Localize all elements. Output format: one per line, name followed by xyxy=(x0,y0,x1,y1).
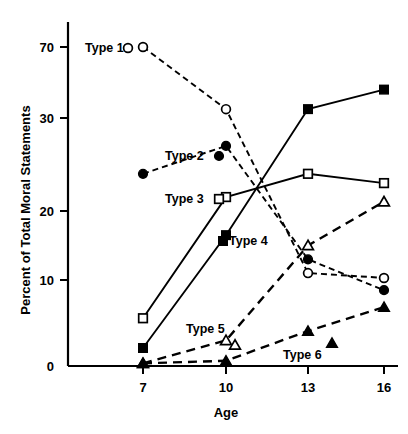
x-tick-label-10: 10 xyxy=(219,380,233,395)
data-point-type-2-age-10 xyxy=(222,142,231,151)
data-point-type-3-age-16 xyxy=(380,179,389,188)
legend-marker-type-4 xyxy=(219,237,228,246)
data-point-type-1-age-10 xyxy=(222,105,231,114)
data-point-type-3-age-7 xyxy=(139,314,148,323)
series-label-type-3: Type 3 xyxy=(165,192,204,206)
data-point-type-4-age-16 xyxy=(380,85,389,94)
data-point-type-2-age-7 xyxy=(139,169,148,178)
legend-marker-type-2 xyxy=(215,152,224,161)
data-point-type-2-age-13 xyxy=(304,255,313,264)
legend-marker-type-1 xyxy=(124,44,133,53)
y-tick-label-30: 30 xyxy=(40,111,54,126)
y-tick-label-0: 0 xyxy=(47,359,54,374)
y-tick-label-20: 20 xyxy=(40,204,54,219)
y-tick-label-10: 10 xyxy=(40,273,54,288)
legend-marker-type-3 xyxy=(215,195,224,204)
series-label-type-1: Type 1 xyxy=(85,41,124,55)
data-point-type-1-age-7 xyxy=(139,43,148,52)
series-label-type-2: Type 2 xyxy=(165,149,204,163)
data-point-type-4-age-7 xyxy=(139,344,148,353)
x-axis-title: Age xyxy=(214,405,239,420)
chart-background xyxy=(0,0,408,434)
data-point-type-1-age-13 xyxy=(304,269,313,278)
data-point-type-2-age-16 xyxy=(380,286,389,295)
moral-statements-line-chart: 70 30 20 10 0 7 10 13 16 Age Percent of … xyxy=(0,0,408,434)
data-point-type-1-age-16 xyxy=(380,274,389,283)
x-tick-label-16: 16 xyxy=(377,380,391,395)
y-axis-title: Percent of Total Moral Statements xyxy=(18,105,33,314)
data-point-type-4-age-13 xyxy=(304,105,313,114)
x-tick-label-7: 7 xyxy=(139,380,146,395)
series-label-type-6: Type 6 xyxy=(283,348,322,362)
data-point-type-3-age-13 xyxy=(304,170,313,179)
y-tick-label-70: 70 xyxy=(40,40,54,55)
series-label-type-4: Type 4 xyxy=(229,234,268,248)
series-label-type-5: Type 5 xyxy=(186,322,225,336)
x-tick-label-13: 13 xyxy=(301,380,315,395)
